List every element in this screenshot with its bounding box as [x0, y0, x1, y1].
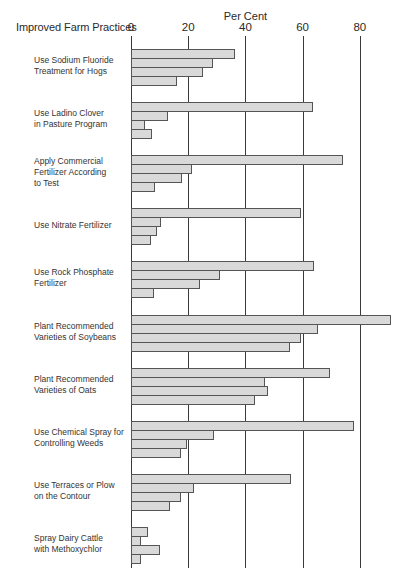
bar: [131, 554, 141, 564]
x-tick-label: 80: [353, 21, 366, 33]
gridline: [360, 36, 361, 568]
category-label: Use Terraces or Plowon the Contour: [34, 480, 129, 502]
bar: [131, 182, 155, 192]
category-label: Use Nitrate Fertilizer: [34, 220, 129, 231]
category-label: Use Sodium FluorideTreatment for Hogs: [34, 55, 129, 77]
category-label: Plant RecommendedVarieties of Soybeans: [34, 321, 129, 343]
x-tick-label: 40: [239, 21, 252, 33]
category-label: Spray Dairy Cattlewith Methoxychlor: [34, 533, 129, 555]
category-label: Use Rock PhosphateFertilizer: [34, 267, 129, 289]
category-label: Use Ladino Cloverin Pasture Program: [34, 108, 129, 130]
category-label: Apply CommercialFertilizer Accordingto T…: [34, 156, 129, 189]
category-axis-title: Improved Farm Practices: [16, 21, 137, 33]
bar: [131, 342, 290, 352]
x-tick-label: 20: [182, 21, 195, 33]
x-tick-label: 60: [296, 21, 309, 33]
gridline: [245, 36, 246, 568]
x-tick-label: 0: [128, 21, 134, 33]
bar-chart: Improved Farm Practices Per Cent 0204060…: [0, 0, 406, 576]
category-label: Use Chemical Spray forControlling Weeds: [34, 427, 129, 449]
bar: [131, 395, 255, 405]
bar: [131, 288, 154, 298]
bar: [131, 129, 152, 139]
gridline: [303, 36, 304, 568]
bar: [131, 448, 181, 458]
bar: [131, 501, 170, 511]
bar: [131, 76, 177, 86]
category-label: Plant RecommendedVarieties of Oats: [34, 374, 129, 396]
bar: [131, 235, 151, 245]
